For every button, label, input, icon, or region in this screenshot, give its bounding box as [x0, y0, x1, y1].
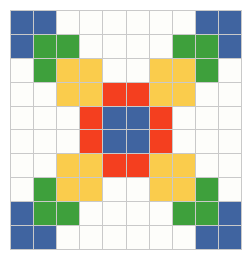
- grid-cell-red-r4c5[interactable]: [103, 83, 125, 106]
- grid-cell-white-r5c8[interactable]: [173, 107, 195, 130]
- grid-cell-yellow-r3c4[interactable]: [80, 59, 102, 82]
- grid-cell-green-r9c8[interactable]: [173, 202, 195, 225]
- grid-cell-white-r8c10[interactable]: [219, 178, 241, 201]
- grid-cell-white-r5c1[interactable]: [11, 107, 33, 130]
- grid-cell-yellow-r7c4[interactable]: [80, 154, 102, 177]
- grid-cell-yellow-r8c8[interactable]: [173, 178, 195, 201]
- grid-cell-blue-r1c9[interactable]: [196, 11, 218, 34]
- grid-cell-white-r2c7[interactable]: [150, 35, 172, 58]
- grid-cell-yellow-r4c4[interactable]: [80, 83, 102, 106]
- grid-cell-red-r6c7[interactable]: [150, 130, 172, 153]
- grid-cell-white-r10c6[interactable]: [127, 226, 149, 249]
- grid-cell-blue-r10c2[interactable]: [34, 226, 56, 249]
- grid-cell-yellow-r3c3[interactable]: [57, 59, 79, 82]
- grid-cell-yellow-r7c3[interactable]: [57, 154, 79, 177]
- grid-cell-yellow-r7c8[interactable]: [173, 154, 195, 177]
- grid-cell-white-r5c2[interactable]: [34, 107, 56, 130]
- grid-cell-white-r9c5[interactable]: [103, 202, 125, 225]
- grid-cell-blue-r2c1[interactable]: [11, 35, 33, 58]
- grid-cell-blue-r1c1[interactable]: [11, 11, 33, 34]
- grid-cell-green-r3c2[interactable]: [34, 59, 56, 82]
- grid-cell-blue-r2c10[interactable]: [219, 35, 241, 58]
- grid-cell-white-r1c3[interactable]: [57, 11, 79, 34]
- grid-cell-green-r2c2[interactable]: [34, 35, 56, 58]
- grid-cell-blue-r6c5[interactable]: [103, 130, 125, 153]
- grid-cell-white-r5c3[interactable]: [57, 107, 79, 130]
- grid-cell-white-r7c10[interactable]: [219, 154, 241, 177]
- grid-cell-white-r10c4[interactable]: [80, 226, 102, 249]
- grid-cell-yellow-r8c4[interactable]: [80, 178, 102, 201]
- grid-cell-white-r10c3[interactable]: [57, 226, 79, 249]
- grid-cell-white-r6c10[interactable]: [219, 130, 241, 153]
- grid-cell-green-r2c3[interactable]: [57, 35, 79, 58]
- grid-cell-white-r6c8[interactable]: [173, 130, 195, 153]
- grid-cell-green-r2c8[interactable]: [173, 35, 195, 58]
- grid-cell-yellow-r3c7[interactable]: [150, 59, 172, 82]
- grid-cell-yellow-r3c8[interactable]: [173, 59, 195, 82]
- grid-cell-blue-r9c1[interactable]: [11, 202, 33, 225]
- grid-cell-yellow-r4c3[interactable]: [57, 83, 79, 106]
- grid-cell-white-r7c1[interactable]: [11, 154, 33, 177]
- grid-cell-white-r7c2[interactable]: [34, 154, 56, 177]
- grid-cell-white-r9c6[interactable]: [127, 202, 149, 225]
- grid-cell-white-r1c8[interactable]: [173, 11, 195, 34]
- grid-cell-white-r6c2[interactable]: [34, 130, 56, 153]
- grid-cell-white-r5c10[interactable]: [219, 107, 241, 130]
- grid-cell-white-r1c5[interactable]: [103, 11, 125, 34]
- grid-cell-white-r2c4[interactable]: [80, 35, 102, 58]
- grid-cell-white-r6c9[interactable]: [196, 130, 218, 153]
- grid-cell-white-r3c6[interactable]: [127, 59, 149, 82]
- grid-cell-red-r7c5[interactable]: [103, 154, 125, 177]
- grid-cell-white-r8c1[interactable]: [11, 178, 33, 201]
- grid-cell-green-r9c3[interactable]: [57, 202, 79, 225]
- grid-cell-white-r4c9[interactable]: [196, 83, 218, 106]
- grid-cell-blue-r1c2[interactable]: [34, 11, 56, 34]
- grid-cell-white-r10c8[interactable]: [173, 226, 195, 249]
- grid-cell-white-r4c10[interactable]: [219, 83, 241, 106]
- grid-cell-blue-r1c10[interactable]: [219, 11, 241, 34]
- grid-cell-white-r6c3[interactable]: [57, 130, 79, 153]
- grid-cell-white-r10c5[interactable]: [103, 226, 125, 249]
- grid-cell-white-r3c10[interactable]: [219, 59, 241, 82]
- grid-cell-red-r6c4[interactable]: [80, 130, 102, 153]
- grid-cell-white-r4c1[interactable]: [11, 83, 33, 106]
- grid-cell-blue-r9c10[interactable]: [219, 202, 241, 225]
- grid-cell-yellow-r7c7[interactable]: [150, 154, 172, 177]
- grid-cell-white-r5c9[interactable]: [196, 107, 218, 130]
- grid-cell-white-r8c6[interactable]: [127, 178, 149, 201]
- grid-cell-red-r5c4[interactable]: [80, 107, 102, 130]
- grid-cell-yellow-r8c7[interactable]: [150, 178, 172, 201]
- grid-cell-green-r9c9[interactable]: [196, 202, 218, 225]
- grid-cell-green-r8c2[interactable]: [34, 178, 56, 201]
- grid-cell-green-r2c9[interactable]: [196, 35, 218, 58]
- grid-cell-white-r2c5[interactable]: [103, 35, 125, 58]
- grid-cell-green-r9c2[interactable]: [34, 202, 56, 225]
- grid-cell-red-r7c6[interactable]: [127, 154, 149, 177]
- grid-cell-white-r9c4[interactable]: [80, 202, 102, 225]
- grid-cell-white-r2c6[interactable]: [127, 35, 149, 58]
- grid-cell-green-r3c9[interactable]: [196, 59, 218, 82]
- grid-cell-yellow-r4c7[interactable]: [150, 83, 172, 106]
- grid-cell-green-r8c9[interactable]: [196, 178, 218, 201]
- grid-cell-red-r4c6[interactable]: [127, 83, 149, 106]
- grid-cell-white-r1c4[interactable]: [80, 11, 102, 34]
- pixel-grid[interactable]: [10, 10, 242, 250]
- grid-cell-white-r3c1[interactable]: [11, 59, 33, 82]
- grid-cell-white-r3c5[interactable]: [103, 59, 125, 82]
- grid-cell-yellow-r8c3[interactable]: [57, 178, 79, 201]
- grid-cell-yellow-r4c8[interactable]: [173, 83, 195, 106]
- grid-cell-blue-r5c5[interactable]: [103, 107, 125, 130]
- grid-cell-white-r4c2[interactable]: [34, 83, 56, 106]
- grid-cell-white-r1c6[interactable]: [127, 11, 149, 34]
- grid-cell-white-r1c7[interactable]: [150, 11, 172, 34]
- grid-cell-white-r7c9[interactable]: [196, 154, 218, 177]
- grid-cell-white-r9c7[interactable]: [150, 202, 172, 225]
- grid-cell-blue-r10c1[interactable]: [11, 226, 33, 249]
- grid-cell-white-r8c5[interactable]: [103, 178, 125, 201]
- grid-cell-blue-r5c6[interactable]: [127, 107, 149, 130]
- grid-cell-blue-r10c9[interactable]: [196, 226, 218, 249]
- grid-cell-white-r6c1[interactable]: [11, 130, 33, 153]
- grid-cell-red-r5c7[interactable]: [150, 107, 172, 130]
- grid-cell-blue-r10c10[interactable]: [219, 226, 241, 249]
- grid-cell-blue-r6c6[interactable]: [127, 130, 149, 153]
